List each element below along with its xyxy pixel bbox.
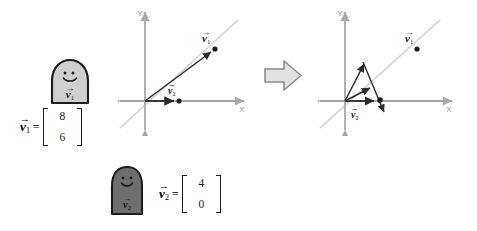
eye-left-icon — [64, 72, 67, 75]
vector-v1 — [145, 52, 211, 101]
vector-harpoon-icon: → — [123, 195, 131, 203]
y-axis-label: Y — [137, 9, 143, 18]
faint-span-line — [120, 20, 238, 128]
x-axis-label: X — [446, 105, 452, 114]
bracket-left — [43, 108, 49, 146]
vector-harpoon-icon: → — [405, 28, 414, 37]
equals-sign: = — [172, 187, 179, 202]
eye-left-icon — [122, 177, 125, 180]
vector-harpoon-icon: → — [159, 181, 169, 191]
point-v2 — [176, 98, 181, 103]
bracket-left — [182, 175, 188, 213]
vector-harpoon-icon: → — [168, 81, 176, 89]
bracket-right — [76, 108, 82, 146]
equation-v2: →v2 = 4 0 — [159, 175, 221, 213]
plot-before-label-v1: →v1 — [202, 28, 210, 46]
vector-harpoon-icon: → — [351, 105, 359, 113]
x-axis-label: X — [239, 105, 245, 114]
point-v2-image — [377, 97, 383, 103]
matrix-cell: 8 — [60, 111, 66, 123]
matrix-cell: 4 — [199, 178, 205, 190]
arrow-right-block-icon — [263, 58, 303, 93]
eye-right-icon — [72, 72, 75, 75]
plot-after-label-v2: →v2 — [351, 104, 359, 122]
eye-right-icon — [130, 177, 133, 180]
bracket-right — [215, 175, 221, 213]
faint-span-line — [320, 20, 440, 128]
equals-sign: = — [33, 120, 40, 135]
point-v1 — [414, 46, 419, 51]
y-axis-label: Y — [337, 9, 343, 18]
plot-before: Y X →v1 →v2 — [118, 4, 253, 136]
vector-harpoon-icon: → — [202, 28, 211, 37]
plot-after: Y X →v1 →v2 — [318, 4, 468, 136]
plot-before-label-v2: →v2 — [168, 80, 176, 98]
figure-canvas: →v1 →v1 = 8 6 →v2 — [0, 0, 477, 231]
blob-v2-label: →v2 — [108, 194, 146, 212]
matrix-cell: 6 — [60, 132, 66, 144]
matrix-v2: 4 0 — [182, 175, 222, 213]
plot-after-label-v1: →v1 — [405, 28, 413, 46]
equation-v1: →v1 = 8 6 — [20, 108, 82, 146]
vector-harpoon-icon: → — [20, 114, 30, 124]
matrix-v1: 8 6 — [43, 108, 83, 146]
blob-v1-label: →v1 — [48, 84, 92, 102]
vector-harpoon-icon: → — [66, 84, 75, 93]
blob-v2: →v2 — [108, 164, 146, 216]
matrix-cell: 0 — [199, 199, 205, 211]
point-v1 — [212, 46, 217, 51]
transform-arrow — [263, 58, 303, 93]
blob-v1: →v1 — [48, 57, 92, 105]
